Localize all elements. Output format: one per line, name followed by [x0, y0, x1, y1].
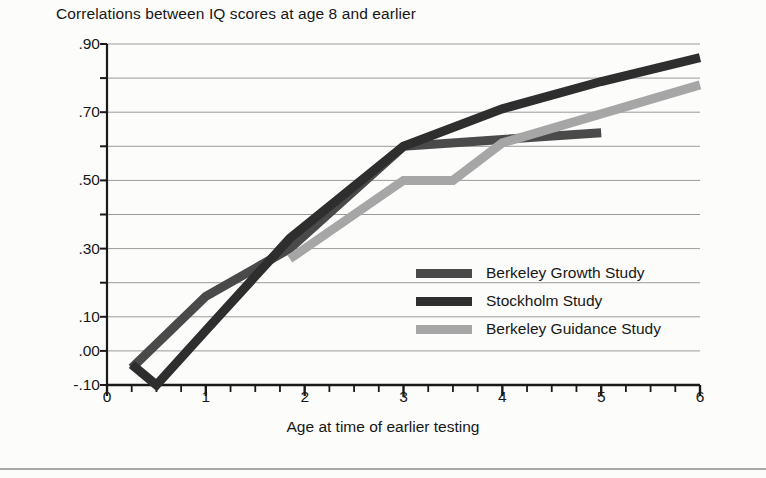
y-tick-label: .90 [38, 35, 100, 53]
plot-svg [0, 0, 766, 478]
chart-legend: Berkeley Growth StudyStockholm StudyBerk… [416, 259, 661, 343]
x-tick-label: 3 [384, 388, 424, 406]
x-tick-label: 1 [186, 388, 226, 406]
legend-item: Berkeley Growth Study [416, 259, 661, 287]
x-axis-title: Age at time of earlier testing [0, 418, 766, 436]
y-tick-label: .10 [38, 308, 100, 326]
legend-item: Stockholm Study [416, 287, 661, 315]
x-tick-label: 5 [581, 388, 621, 406]
plot-area [0, 0, 766, 478]
legend-label: Berkeley Guidance Study [486, 320, 661, 338]
legend-color-swatch [416, 269, 472, 278]
legend-label: Stockholm Study [486, 292, 602, 310]
legend-item: Berkeley Guidance Study [416, 315, 661, 343]
x-tick-label: 2 [285, 388, 325, 406]
x-tick-label: 0 [87, 388, 127, 406]
legend-color-swatch [416, 325, 472, 334]
x-tick-label: 6 [680, 388, 720, 406]
y-tick-label: .00 [38, 342, 100, 360]
legend-color-swatch [416, 297, 472, 306]
chart-figure: Correlations between IQ scores at age 8 … [0, 0, 766, 478]
y-tick-label: .70 [38, 103, 100, 121]
bottom-divider [0, 468, 766, 470]
x-tick-label: 4 [482, 388, 522, 406]
y-axis-tick-labels: .90.70.50.30.10.00-.10 [38, 0, 100, 478]
y-tick-label: .30 [38, 240, 100, 258]
legend-label: Berkeley Growth Study [486, 264, 645, 282]
y-tick-label: .50 [38, 171, 100, 189]
